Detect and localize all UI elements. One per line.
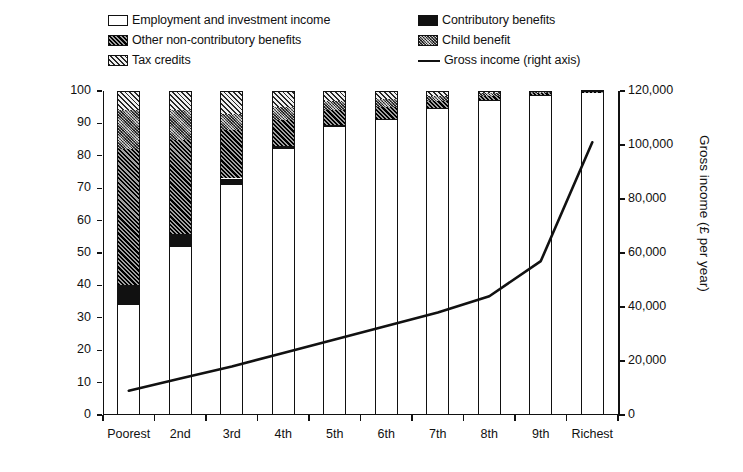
y-tick-label-left: 40 xyxy=(42,277,91,291)
legend-column-right: Contributory benefits Child benefit Gros… xyxy=(418,10,668,70)
y-tick-label-left: 20 xyxy=(42,342,91,356)
legend-item-child-benefit: Child benefit xyxy=(418,30,668,50)
y-tick-label-left: 50 xyxy=(42,245,91,259)
x-tick xyxy=(411,415,412,421)
bar-outline xyxy=(581,91,604,415)
legend-swatch-tax-credits-icon xyxy=(108,55,128,66)
y-tick-right xyxy=(620,252,625,253)
bar-3rd[interactable] xyxy=(220,91,243,415)
y-tick-label-left: 0 xyxy=(42,407,91,421)
y-tick-left xyxy=(97,220,102,221)
y-tick-label-left: 100 xyxy=(42,83,91,97)
bar-outline xyxy=(117,91,140,415)
legend-swatch-line-icon xyxy=(418,55,440,66)
legend-item-contributory-benefits: Contributory benefits xyxy=(418,10,668,30)
bar-outline xyxy=(375,91,398,415)
bar-richest[interactable] xyxy=(581,91,604,415)
legend-item-tax-credits: Tax credits xyxy=(108,50,408,70)
legend-label-gross-income: Gross income (right axis) xyxy=(444,50,580,70)
x-tick-label-richest: Richest xyxy=(552,427,632,441)
y-tick-left xyxy=(97,155,102,156)
legend-label-other-non-contributory: Other non-contributory benefits xyxy=(132,30,301,50)
y-tick-label-right: 120,000 xyxy=(628,83,673,97)
legend-label-employment: Employment and investment income xyxy=(132,10,330,30)
y-tick-label-left: 60 xyxy=(42,213,91,227)
y-tick-label-right: 80,000 xyxy=(628,191,666,205)
y-tick-right xyxy=(620,90,625,91)
y-tick-label-right: 100,000 xyxy=(628,137,673,151)
y-tick-left xyxy=(97,90,102,91)
bar-9th[interactable] xyxy=(529,91,552,415)
legend-item-employment-and-investment-income: Employment and investment income xyxy=(108,10,408,30)
y-tick-left xyxy=(97,350,102,351)
y-tick-right xyxy=(620,414,625,415)
bar-outline xyxy=(529,91,552,415)
bar-outline xyxy=(323,91,346,415)
x-tick xyxy=(463,415,464,421)
legend-label-tax-credits: Tax credits xyxy=(132,50,191,70)
plot-area xyxy=(103,91,618,415)
x-tick xyxy=(102,415,103,421)
y-tick-left xyxy=(97,252,102,253)
x-tick xyxy=(360,415,361,421)
legend-item-gross-income: Gross income (right axis) xyxy=(418,50,668,70)
x-tick xyxy=(154,415,155,421)
y-tick-label-left: 70 xyxy=(42,180,91,194)
income-composition-chart: Employment and investment income Other n… xyxy=(0,0,743,472)
x-tick xyxy=(205,415,206,421)
y-tick-left xyxy=(97,188,102,189)
y-tick-label-right: 60,000 xyxy=(628,245,666,259)
y-axis-right-title: Gross income (£ per year) xyxy=(697,135,712,292)
legend-swatch-child-benefit-icon xyxy=(418,35,438,46)
x-tick xyxy=(566,415,567,421)
bar-2nd[interactable] xyxy=(169,91,192,415)
legend-item-other-non-contributory-benefits: Other non-contributory benefits xyxy=(108,30,408,50)
y-tick-label-right: 0 xyxy=(628,407,635,421)
y-tick-label-left: 30 xyxy=(42,310,91,324)
y-tick-label-right: 20,000 xyxy=(628,353,666,367)
bar-outline xyxy=(478,91,501,415)
y-tick-left xyxy=(97,285,102,286)
y-tick-label-left: 80 xyxy=(42,148,91,162)
legend-swatch-employment-icon xyxy=(108,15,128,26)
bar-8th[interactable] xyxy=(478,91,501,415)
bar-poorest[interactable] xyxy=(117,91,140,415)
bar-4th[interactable] xyxy=(272,91,295,415)
y-tick-right xyxy=(620,198,625,199)
bar-outline xyxy=(426,91,449,415)
y-tick-label-right: 40,000 xyxy=(628,299,666,313)
chart-legend: Employment and investment income Other n… xyxy=(108,10,668,72)
bar-outline xyxy=(220,91,243,415)
y-tick-left xyxy=(97,317,102,318)
bar-7th[interactable] xyxy=(426,91,449,415)
legend-column-left: Employment and investment income Other n… xyxy=(108,10,408,70)
legend-swatch-contributory-icon xyxy=(418,15,438,26)
legend-label-contributory: Contributory benefits xyxy=(442,10,555,30)
bar-5th[interactable] xyxy=(323,91,346,415)
y-tick-left xyxy=(97,382,102,383)
bar-outline xyxy=(272,91,295,415)
x-tick xyxy=(257,415,258,421)
legend-swatch-other-non-contributory-icon xyxy=(108,35,128,46)
y-tick-label-left: 10 xyxy=(42,375,91,389)
y-tick-right xyxy=(620,306,625,307)
bar-6th[interactable] xyxy=(375,91,398,415)
y-tick-left xyxy=(97,414,102,415)
x-tick xyxy=(514,415,515,421)
y-tick-right xyxy=(620,144,625,145)
bar-outline xyxy=(169,91,192,415)
y-tick-label-left: 90 xyxy=(42,115,91,129)
y-tick-right xyxy=(620,360,625,361)
x-tick xyxy=(308,415,309,421)
x-tick xyxy=(617,415,618,421)
y-tick-left xyxy=(97,123,102,124)
legend-label-child-benefit: Child benefit xyxy=(442,30,510,50)
